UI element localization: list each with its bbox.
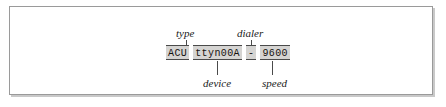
callout-label-speed: speed: [262, 77, 287, 89]
field-dialer: -: [246, 45, 256, 60]
field-device: ttyn00A: [193, 45, 242, 60]
figure-panel: type dialer device speed ACU ttyn00A - 9…: [9, 6, 433, 95]
leader-line-speed: [272, 61, 273, 75]
callout-label-device: device: [203, 77, 231, 89]
callout-label-dialer: dialer: [237, 27, 263, 39]
callout-label-type: type: [176, 27, 194, 39]
leader-line-device: [217, 61, 218, 75]
config-code-line: ACU ttyn00A - 9600: [166, 45, 290, 60]
field-speed: 9600: [260, 45, 290, 60]
field-type: ACU: [166, 45, 189, 60]
